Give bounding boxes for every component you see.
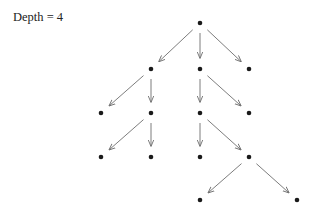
edge-arrow xyxy=(207,30,241,62)
tree-node xyxy=(149,111,154,116)
tree-node xyxy=(149,67,154,72)
tree-node xyxy=(247,111,252,116)
tree-node xyxy=(149,155,154,160)
tree-graph xyxy=(0,0,317,211)
tree-node xyxy=(198,67,203,72)
edge-arrow xyxy=(208,164,241,193)
edge-arrow xyxy=(256,164,288,193)
edge-arrow xyxy=(207,76,240,106)
tree-node xyxy=(198,111,203,116)
edge-arrow xyxy=(207,120,240,150)
edge-arrow xyxy=(159,30,193,62)
edge-arrow xyxy=(109,120,143,150)
tree-node xyxy=(99,155,104,160)
tree-node xyxy=(198,155,203,160)
tree-diagram: Depth = 4 xyxy=(0,0,317,211)
tree-node xyxy=(247,155,252,160)
tree-node xyxy=(295,198,300,203)
tree-node xyxy=(198,21,203,26)
tree-node xyxy=(99,111,104,116)
edge-arrow xyxy=(109,76,143,106)
tree-node xyxy=(247,67,252,72)
tree-node xyxy=(198,198,203,203)
